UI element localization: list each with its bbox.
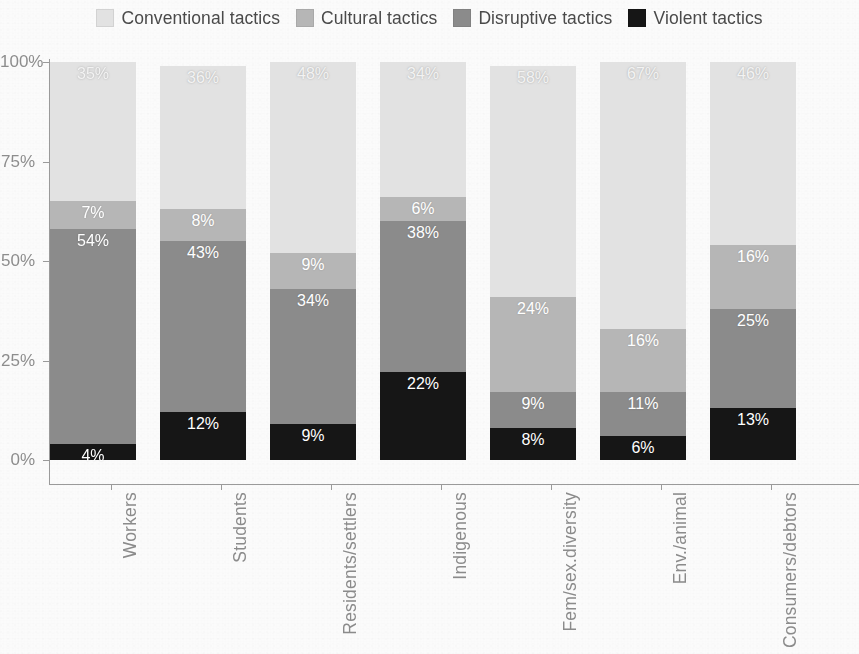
x-axis-label: Students — [230, 492, 251, 563]
chart-legend: Conventional tacticsCultural tacticsDisr… — [0, 4, 859, 32]
plot-area: 4%54%7%35%12%43%8%36%9%34%9%48%22%38%6%3… — [50, 60, 858, 462]
legend-item-label: Disruptive tactics — [478, 8, 612, 29]
y-tick-label: 50% — [0, 251, 44, 271]
bar-segment[interactable]: 43% — [160, 241, 246, 412]
bar-segment[interactable]: 38% — [380, 221, 466, 372]
legend-item[interactable]: Conventional tactics — [96, 8, 280, 29]
bar-segment[interactable]: 6% — [380, 197, 466, 221]
bar-segment-value-label: 34% — [407, 62, 439, 82]
bar-segment[interactable]: 25% — [710, 309, 796, 409]
legend-item[interactable]: Cultural tactics — [296, 8, 437, 29]
bar-segment-value-label: 8% — [521, 428, 544, 448]
chart-root: Conventional tacticsCultural tacticsDisr… — [0, 0, 859, 654]
x-axis-label: Workers — [120, 492, 141, 558]
legend-swatch-icon — [96, 9, 114, 27]
legend-item-label: Violent tactics — [653, 8, 762, 29]
legend-item-label: Conventional tactics — [121, 8, 280, 29]
x-axis-line — [49, 484, 859, 485]
x-axis-label: Env./animal — [670, 492, 691, 584]
bar-segment[interactable]: 7% — [50, 201, 136, 229]
bar-column[interactable]: 4%54%7%35% — [50, 60, 136, 460]
bar-column[interactable]: 12%43%8%36% — [160, 60, 246, 460]
bar-segment-value-label: 22% — [407, 372, 439, 392]
bar-segment-value-label: 67% — [627, 62, 659, 82]
legend-swatch-icon — [628, 9, 646, 27]
bar-column[interactable]: 9%34%9%48% — [270, 60, 356, 460]
bar-segment[interactable]: 35% — [50, 62, 136, 201]
bar-segment[interactable]: 58% — [490, 66, 576, 297]
bar-column[interactable]: 6%11%16%67% — [600, 60, 686, 460]
bar-segment[interactable]: 34% — [270, 289, 356, 424]
bar-segment-value-label: 48% — [297, 62, 329, 82]
bar-segment-value-label: 8% — [191, 209, 214, 229]
bar-segment-value-label: 6% — [631, 436, 654, 456]
bar-segment-value-label: 6% — [411, 197, 434, 217]
bar-segment-value-label: 16% — [737, 245, 769, 265]
bar-segment[interactable]: 8% — [490, 428, 576, 460]
x-tick-mark — [441, 484, 442, 490]
legend-item[interactable]: Violent tactics — [628, 8, 762, 29]
bar-segment-value-label: 11% — [628, 392, 659, 412]
x-tick-mark — [661, 484, 662, 490]
legend-swatch-icon — [296, 9, 314, 27]
bar-segment-value-label: 35% — [77, 62, 109, 82]
bar-segment-value-label: 43% — [187, 241, 219, 261]
bar-segment-value-label: 16% — [627, 329, 659, 349]
bar-segment-value-label: 58% — [517, 66, 549, 86]
bar-segment-value-label: 9% — [301, 253, 324, 273]
bar-segment[interactable]: 9% — [270, 253, 356, 289]
bar-segment[interactable]: 54% — [50, 229, 136, 444]
legend-item[interactable]: Disruptive tactics — [453, 8, 612, 29]
bar-segment-value-label: 9% — [521, 392, 544, 412]
bar-segment[interactable]: 24% — [490, 297, 576, 393]
bar-segment-value-label: 54% — [77, 229, 109, 249]
bar-segment[interactable]: 8% — [160, 209, 246, 241]
bar-segment[interactable]: 67% — [600, 62, 686, 329]
bar-segment[interactable]: 9% — [270, 424, 356, 460]
legend-swatch-icon — [453, 9, 471, 27]
bar-segment[interactable]: 4% — [50, 444, 136, 460]
x-tick-mark — [221, 484, 222, 490]
bar-segment[interactable]: 13% — [710, 408, 796, 460]
x-axis-label: Fem/sex.diversity — [560, 492, 581, 632]
y-axis-line — [49, 59, 50, 484]
bar-segment[interactable]: 48% — [270, 62, 356, 253]
x-axis-label: Indigenous — [450, 492, 471, 580]
bar-segment-value-label: 25% — [737, 309, 769, 329]
x-axis-label: Consumers/debtors — [780, 492, 801, 648]
x-tick-mark — [111, 484, 112, 490]
bar-segment-value-label: 24% — [517, 297, 549, 317]
bar-segment[interactable]: 46% — [710, 62, 796, 245]
bar-segment-value-label: 38% — [407, 221, 439, 241]
bar-segment[interactable]: 36% — [160, 66, 246, 209]
bar-column[interactable]: 22%38%6%34% — [380, 60, 466, 460]
bar-column[interactable]: 8%9%24%58% — [490, 60, 576, 460]
bar-segment[interactable]: 16% — [710, 245, 796, 309]
bar-segment[interactable]: 11% — [600, 392, 686, 436]
legend-item-label: Cultural tactics — [321, 8, 437, 29]
bar-segment[interactable]: 22% — [380, 372, 466, 460]
bar-segment[interactable]: 9% — [490, 392, 576, 428]
bar-segment[interactable]: 16% — [600, 329, 686, 393]
y-tick-label: 100% — [0, 52, 44, 72]
bar-segment-value-label: 9% — [301, 424, 324, 444]
bar-segment-value-label: 36% — [187, 66, 219, 86]
y-tick-label: 75% — [0, 152, 44, 172]
bar-column[interactable]: 13%25%16%46% — [710, 60, 796, 460]
bar-segment-value-label: 34% — [297, 289, 329, 309]
bar-segment-value-label: 4% — [81, 444, 104, 464]
bar-segment-value-label: 7% — [81, 201, 104, 221]
y-tick-label: 25% — [0, 351, 44, 371]
bar-segment-value-label: 12% — [187, 412, 219, 432]
bar-segment[interactable]: 34% — [380, 62, 466, 197]
x-tick-mark — [771, 484, 772, 490]
bar-segment-value-label: 13% — [737, 408, 769, 428]
x-axis-label: Residents/settlers — [340, 492, 361, 635]
bar-segment-value-label: 46% — [737, 62, 769, 82]
x-tick-mark — [331, 484, 332, 490]
bar-segment[interactable]: 6% — [600, 436, 686, 460]
x-tick-mark — [551, 484, 552, 490]
bar-segment[interactable]: 12% — [160, 412, 246, 460]
y-tick-label: 0% — [0, 450, 44, 470]
